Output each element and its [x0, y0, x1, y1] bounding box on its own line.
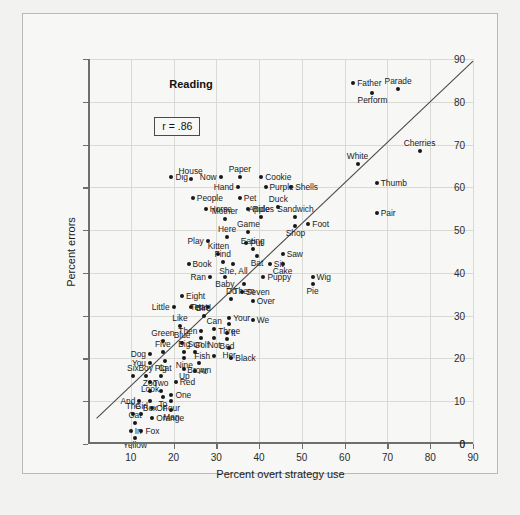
data-point [187, 262, 191, 266]
data-point [133, 421, 137, 425]
data-point-label: Over [257, 296, 275, 304]
data-point-label: Game [237, 220, 260, 228]
data-point [212, 354, 216, 358]
data-point-label: Little [152, 303, 170, 311]
y-tick-label: 60 [454, 182, 465, 193]
data-point-label: Sun [187, 340, 202, 348]
data-point [159, 389, 163, 393]
data-point [204, 207, 208, 211]
figure-frame: FatherParadePerformCherriesWhiteThumbDig… [22, 13, 498, 474]
data-point-label: Bird [196, 303, 211, 311]
data-point-label: Wig [317, 273, 331, 281]
data-point [148, 389, 152, 393]
data-point-label: Green [151, 329, 174, 337]
data-point-label: Hand [214, 183, 234, 191]
data-point-label: Book [193, 260, 212, 268]
x-tick [345, 444, 346, 449]
data-point [356, 162, 360, 166]
data-point-label: Pet [244, 194, 257, 202]
data-point-label: Perform [358, 96, 388, 104]
data-point [229, 356, 233, 360]
data-point [238, 196, 242, 200]
data-point-label: People [197, 194, 223, 202]
y-tick-label: 70 [454, 139, 465, 150]
data-point [229, 297, 233, 301]
data-point [289, 185, 293, 189]
data-point [191, 196, 195, 200]
data-point [208, 275, 212, 279]
data-point [281, 252, 285, 256]
data-point [172, 305, 176, 309]
x-tick [131, 444, 132, 449]
data-point-label: Sandwich [277, 205, 313, 213]
scatter-plot: FatherParadePerformCherriesWhiteThumbDig… [88, 59, 473, 444]
data-point-label: Can [207, 316, 222, 324]
data-point [236, 185, 240, 189]
data-point-label: Play [187, 237, 203, 245]
data-point [268, 262, 272, 266]
data-point [223, 217, 227, 221]
data-point [418, 149, 422, 153]
y-tick [83, 230, 88, 231]
y-tick-label: 0 [459, 439, 465, 450]
panel-title: Reading [169, 78, 212, 90]
y-tick-label: 30 [454, 310, 465, 321]
x-tick-label: 60 [339, 452, 350, 463]
x-tick [473, 444, 474, 449]
data-point-label: Puppy [267, 273, 291, 281]
data-point-label: Boy [139, 363, 153, 371]
y-tick [83, 358, 88, 359]
data-point-label: We [257, 316, 269, 324]
y-tick-label: 20 [454, 353, 465, 364]
x-tick [387, 444, 388, 449]
y-tick-label: 40 [454, 267, 465, 278]
data-point-label: Fish [194, 352, 210, 360]
data-point-label: Saw [287, 249, 303, 257]
data-point [202, 314, 206, 318]
data-point-label: Thumb [381, 179, 407, 187]
data-point-label: Cherries [404, 139, 436, 147]
data-point-label: Pie [307, 287, 319, 295]
data-point [148, 352, 152, 356]
y-tick [83, 444, 88, 445]
data-point-label: Now [200, 172, 217, 180]
y-tick [83, 59, 88, 60]
data-point [182, 350, 186, 354]
y-tick-label: 50 [454, 225, 465, 236]
data-point [246, 230, 250, 234]
x-tick-label: 70 [382, 452, 393, 463]
data-point [251, 247, 255, 251]
x-tick-label: 30 [211, 452, 222, 463]
x-axis [88, 442, 473, 444]
data-point-label: At [199, 367, 207, 375]
data-point [180, 294, 184, 298]
x-tick-label: 90 [467, 452, 478, 463]
y-axis [88, 59, 90, 444]
y-tick [83, 401, 88, 402]
data-point-label: Mother [212, 207, 238, 215]
data-point-label: Fox [145, 427, 159, 435]
data-point-label: Orange [156, 414, 184, 422]
data-point [189, 177, 193, 181]
y-axis-label: Percent errors [65, 217, 77, 287]
data-point-label: Two [153, 378, 168, 386]
data-point-label: Do [226, 286, 237, 294]
data-point-label: Red [180, 378, 195, 386]
y-tick [83, 316, 88, 317]
data-point [251, 299, 255, 303]
data-point-label: Ran [191, 273, 206, 281]
x-tick [430, 444, 431, 449]
data-point-label: Parade [385, 77, 412, 85]
data-point [169, 175, 173, 179]
data-point-label: Here [218, 224, 236, 232]
data-point-label: Apples [248, 205, 274, 213]
data-point [264, 185, 268, 189]
data-point-label: Cat [129, 410, 142, 418]
data-point [161, 350, 165, 354]
data-point [174, 380, 178, 384]
gridline-vertical [473, 59, 474, 444]
data-point [240, 290, 244, 294]
data-point-label: Your [233, 314, 250, 322]
data-point-label: It [231, 329, 236, 337]
data-point-label: One [175, 391, 191, 399]
